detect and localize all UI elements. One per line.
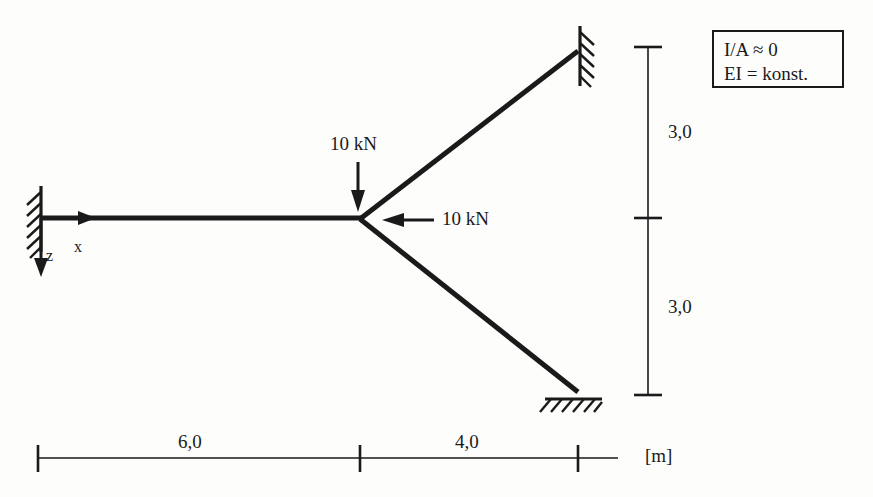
figure-canvas: 10 kN 10 kN z x 3,0 3,0 6,0 4,0 [m] I/A …: [0, 0, 873, 497]
horizontal-dimension-label-left: 6,0: [178, 432, 202, 451]
units-label: [m]: [645, 446, 672, 465]
legend-line-i-over-a: I/A ≈ 0: [724, 39, 778, 61]
upper-diagonal-member: [360, 51, 578, 219]
vertical-dimension-label-lower: 3,0: [668, 297, 692, 316]
vertical-dimension-label-upper: 3,0: [668, 122, 692, 141]
horizontal-dimension-line: [38, 445, 618, 472]
horizontal-load-label: 10 kN: [442, 209, 489, 228]
legend-line-ei: EI = konst.: [724, 63, 808, 85]
legend-box: I/A ≈ 0 EI = konst.: [712, 30, 844, 88]
vertical-load-arrow: [351, 162, 365, 212]
x-axis-label: x: [74, 239, 82, 255]
bottom-right-support: [540, 399, 602, 412]
horizontal-dimension-label-right: 4,0: [455, 432, 479, 451]
horizontal-load-arrow: [382, 213, 434, 227]
top-right-fixed-support: [580, 26, 594, 87]
z-axis-label: z: [46, 248, 53, 264]
left-fixed-support: [27, 186, 41, 258]
lower-diagonal-member: [360, 219, 578, 392]
vertical-load-label: 10 kN: [330, 134, 377, 153]
vertical-dimension-line: [634, 47, 662, 395]
x-axis-arrow: [78, 211, 96, 225]
